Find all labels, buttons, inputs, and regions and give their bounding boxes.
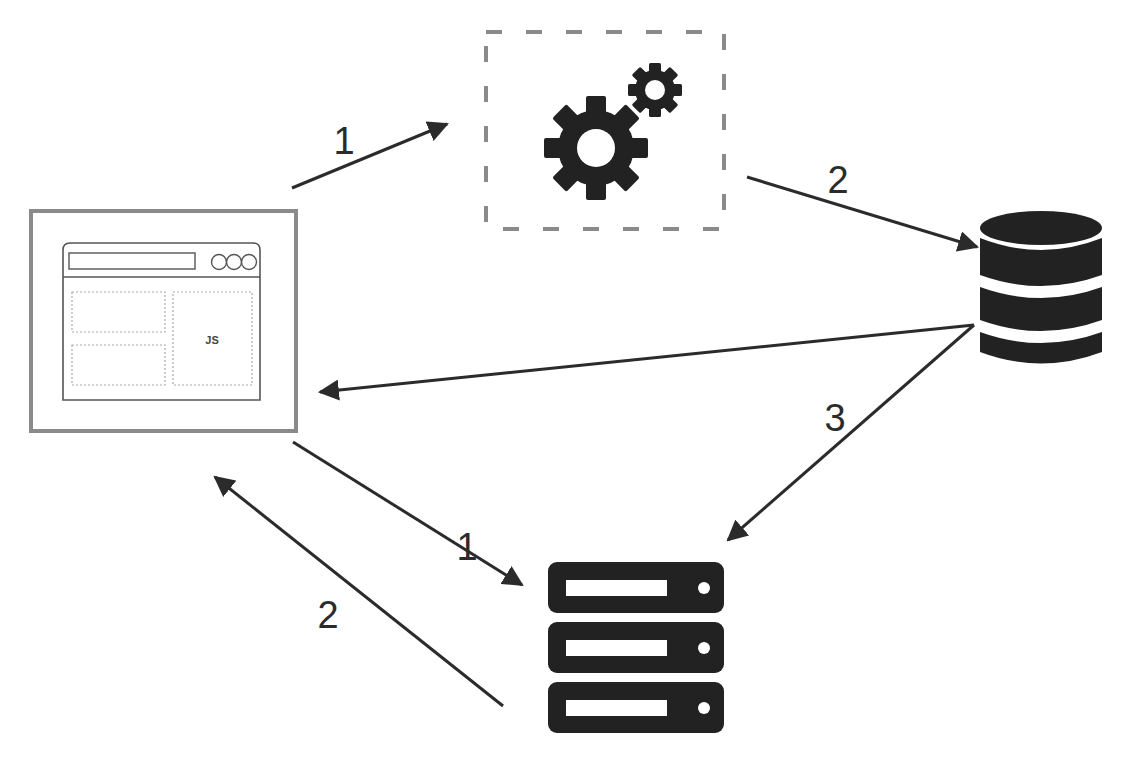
browser-node: JS [31,211,296,431]
window-control-icon [227,255,242,270]
address-bar-icon [69,253,195,269]
edge-label-processing-database: 2 [827,159,848,201]
diagram-canvas: JS [0,0,1130,763]
edge-label-database-server: 3 [824,397,845,439]
edge-label-server-browser: 2 [317,594,338,636]
database-icon [980,211,1102,364]
arrow-server-to-browser [215,477,503,706]
gear-small-icon [628,63,682,117]
edge-label-browser-server: 1 [456,526,477,568]
gear-large-icon [544,96,648,200]
window-control-icon [212,255,227,270]
arrow-database-to-server [728,325,974,540]
window-control-icon [242,255,257,270]
arrow-browser-to-server [293,442,522,585]
arrow-database-to-browser [320,325,974,392]
arrow-browser-to-processing [292,124,447,188]
browser-window-icon: JS [63,243,260,400]
js-label: JS [205,334,218,346]
edge-label-browser-processing: 1 [333,120,354,162]
arrow-processing-to-database [747,177,977,247]
server-stack-icon [548,562,724,733]
processing-node [486,32,724,229]
